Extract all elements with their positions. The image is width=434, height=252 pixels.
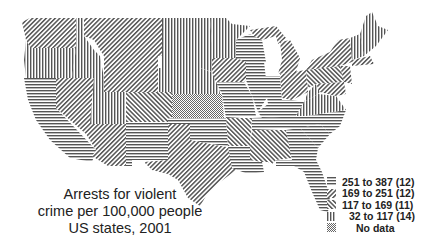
title-line-1: Arrests for violent: [20, 186, 220, 203]
state-indiana: [264, 76, 282, 104]
title-line-2: crime per 100,000 people: [20, 203, 220, 220]
state-ohio: [280, 70, 308, 100]
map-legend: 251 to 387 (12) 169 to 251 (12) 117 to 1…: [327, 176, 415, 234]
state-iowa: [212, 58, 250, 82]
map-title: Arrests for violent crime per 100,000 pe…: [20, 186, 220, 237]
state-florida: [276, 160, 330, 212]
state-michigan-lower: [278, 40, 300, 74]
state-montana: [84, 18, 162, 56]
legend-label: 117 to 169 (11): [342, 199, 413, 211]
vertical-lines-swatch-icon: [327, 212, 336, 221]
title-line-3: US states, 2001: [20, 220, 220, 237]
state-new-mexico: [126, 122, 168, 166]
legend-item-169-251: 169 to 251 (12): [327, 188, 415, 200]
forward-slash-lines-swatch-icon: [327, 200, 336, 209]
checker-swatch-icon: [327, 223, 336, 232]
state-south-dakota: [162, 44, 212, 72]
legend-label: 32 to 117 (14): [342, 210, 415, 222]
backslash-lines-swatch-icon: [327, 189, 336, 198]
state-maryland: [316, 82, 346, 96]
state-wyoming: [104, 56, 158, 92]
state-arkansas: [226, 118, 252, 146]
state-north-dakota: [162, 18, 212, 44]
legend-item-no-data: No data: [327, 222, 415, 234]
legend-label: No data: [342, 222, 395, 234]
state-maine: [360, 12, 388, 56]
state-mississippi: [250, 130, 268, 162]
legend-item-32-117: 32 to 117 (14): [327, 211, 415, 223]
state-nebraska: [158, 68, 220, 94]
state-kansas: [172, 94, 224, 118]
legend-label: 169 to 251 (12): [342, 187, 414, 199]
legend-item-251-387: 251 to 387 (12): [327, 176, 415, 188]
legend-label: 251 to 387 (12): [342, 176, 414, 188]
state-colorado: [126, 92, 172, 122]
horizontal-lines-swatch-icon: [327, 177, 336, 186]
state-washington: [22, 18, 76, 48]
legend-item-117-169: 117 to 169 (11): [327, 199, 415, 211]
state-new-york: [306, 38, 352, 70]
